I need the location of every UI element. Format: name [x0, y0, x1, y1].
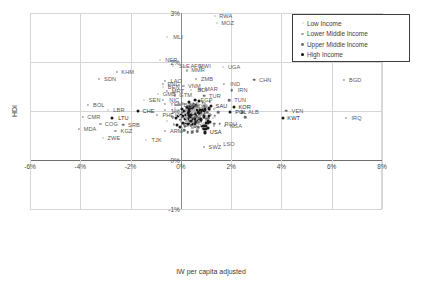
- data-point: [203, 122, 205, 124]
- data-point: [145, 139, 147, 141]
- x-tick-label: -2%: [125, 163, 137, 170]
- legend-item-low[interactable]: Low Income: [298, 18, 404, 29]
- point-label: TJK: [152, 137, 162, 143]
- point-label: POL: [235, 109, 247, 115]
- legend-item-high[interactable]: High Income: [298, 50, 404, 61]
- data-point: [181, 114, 184, 117]
- gridline-x--6: [30, 13, 31, 209]
- legend-item-uppermid[interactable]: Upper Middle Income: [298, 39, 404, 50]
- point-label: YEM: [170, 101, 182, 107]
- data-point: [209, 120, 212, 123]
- point-label: ZWE: [108, 135, 121, 141]
- data-point: [205, 117, 208, 120]
- data-point: [102, 137, 104, 139]
- data-point: [174, 117, 177, 120]
- point-label: LTU: [118, 115, 128, 121]
- point-label: IRN: [238, 87, 248, 93]
- x-tick-label: 2%: [226, 163, 235, 170]
- data-point: [143, 99, 145, 101]
- data-point: [136, 110, 139, 113]
- data-point: [159, 59, 161, 61]
- point-label: MLI: [173, 34, 183, 40]
- data-point: [196, 130, 199, 133]
- point-label: LBR: [113, 107, 124, 113]
- data-point: [190, 114, 193, 117]
- legend-label: Low Income: [307, 20, 341, 27]
- data-point: [230, 89, 233, 92]
- point-label: BRA: [183, 102, 195, 108]
- gridline-y-0: [30, 160, 382, 161]
- legend-label: Lower Middle Income: [307, 30, 368, 37]
- data-point: [111, 116, 114, 119]
- point-label: ARM: [170, 128, 183, 134]
- data-point: [205, 127, 208, 130]
- legend-label: High Income: [307, 51, 343, 58]
- data-point: [219, 122, 222, 125]
- point-label: SDN: [104, 76, 116, 82]
- x-tick-label: -4%: [75, 163, 87, 170]
- x-tick-label: 8%: [377, 163, 386, 170]
- point-label: GMB: [163, 91, 176, 97]
- point-label: ALB: [248, 109, 259, 115]
- y-tick-label: 1%: [170, 108, 179, 115]
- legend-marker-icon: [298, 53, 307, 56]
- data-point: [186, 131, 189, 134]
- point-label: MDA: [84, 126, 97, 132]
- data-point: [183, 129, 186, 132]
- point-label: USA: [210, 129, 222, 135]
- data-point: [253, 78, 256, 81]
- legend-item-lowermid[interactable]: Lower Middle Income: [298, 29, 404, 40]
- y-tick-label: 2%: [170, 59, 179, 66]
- data-point: [203, 115, 206, 118]
- data-point: [214, 116, 216, 118]
- legend-marker-icon: [298, 22, 307, 24]
- data-point: [200, 119, 203, 122]
- point-label: SEN: [149, 97, 161, 103]
- data-point: [228, 110, 231, 113]
- data-point: [208, 106, 211, 109]
- point-label: CHN: [259, 77, 271, 83]
- data-point: [222, 66, 224, 68]
- point-label: CHE: [143, 108, 155, 114]
- point-label: CMR: [87, 114, 100, 120]
- point-label: LSO: [223, 141, 235, 147]
- data-point: [203, 131, 206, 134]
- point-label: IRQ: [351, 115, 361, 121]
- data-point: [157, 93, 159, 95]
- point-label: SAU: [216, 103, 228, 109]
- point-label: ZMB: [201, 76, 213, 82]
- data-point: [166, 36, 168, 38]
- legend-label: Upper Middle Income: [307, 41, 368, 48]
- data-point: [184, 125, 187, 128]
- point-label: SWZ: [209, 144, 222, 150]
- point-label: MYS: [195, 103, 207, 109]
- x-tick-label: 6%: [327, 163, 336, 170]
- data-point: [244, 116, 247, 119]
- legend[interactable]: Low IncomeLower Middle IncomeUpper Middl…: [292, 14, 410, 62]
- point-label: SLE: [179, 63, 190, 69]
- point-label: TUN: [234, 97, 246, 103]
- point-label: MAR: [205, 86, 218, 92]
- point-label: COG: [105, 121, 118, 127]
- gridline-x-4: [281, 13, 282, 209]
- legend-marker-icon: [298, 43, 307, 46]
- data-point: [189, 120, 192, 123]
- gridline-y--1: [30, 209, 382, 210]
- gridline-x--2: [131, 13, 132, 209]
- data-point: [214, 15, 216, 17]
- scatter-chart: RWAMOZMLINERSLEAFGMWIMMRUGAKHMSDNZMBCHNB…: [0, 0, 422, 290]
- legend-marker-icon: [298, 33, 307, 35]
- data-point: [203, 125, 206, 128]
- x-tick-label: 0%: [176, 163, 185, 170]
- point-label: MOZ: [221, 20, 234, 26]
- data-point: [122, 123, 125, 126]
- point-label: GTM: [179, 92, 192, 98]
- data-point: [217, 111, 220, 114]
- point-label: KGZ: [121, 128, 133, 134]
- point-label: UGA: [228, 64, 240, 70]
- data-point: [190, 89, 192, 91]
- data-point: [191, 131, 194, 134]
- data-point: [205, 121, 208, 124]
- point-label: MMR: [191, 67, 205, 73]
- x-axis-title: IW per capita adjusted: [176, 268, 246, 275]
